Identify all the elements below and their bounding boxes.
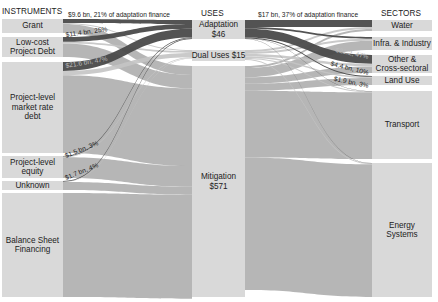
instrument-label: Balance SheetFinancing bbox=[2, 193, 63, 297]
use-value-text: $46 bbox=[199, 30, 238, 40]
instrument-label: Low-costProject Debt bbox=[2, 37, 63, 57]
annotation-water: $17 bn, 37% of adaptation finance bbox=[258, 11, 358, 19]
instrument-label: Grant bbox=[2, 19, 63, 33]
use-value-text: $571 bbox=[201, 182, 236, 192]
instrument-label: Unknown bbox=[2, 181, 63, 190]
use-label-adaptation: Adaptation$46 bbox=[192, 20, 245, 39]
flow-adaptation-sector bbox=[245, 20, 372, 27]
use-label-mitigation: Mitigation$571 bbox=[192, 66, 245, 297]
sector-label-text: Infra. & Industry bbox=[373, 39, 431, 49]
sectors-header: SECTORS bbox=[381, 9, 421, 18]
flow-instrument-mitigation bbox=[63, 193, 192, 299]
sector-label: Other &Cross-sectoral bbox=[372, 55, 432, 73]
annotation-grant: $9.6 bn, 21% of adaptation finance bbox=[68, 11, 170, 19]
flow-instrument-adaptation bbox=[63, 19, 192, 24]
sector-label-text: Cross-sectoral bbox=[376, 64, 429, 74]
instrument-label-text: Unknown bbox=[15, 181, 49, 191]
use-label-dual: Dual Uses $15 bbox=[186, 50, 251, 61]
instrument-label-text: market rate bbox=[10, 103, 55, 113]
instrument-label-text: Project Debt bbox=[10, 47, 55, 57]
flow-mitigation-sector bbox=[245, 157, 372, 297]
instrument-label-text: Low-cost bbox=[10, 38, 55, 48]
instrument-label-text: debt bbox=[10, 112, 55, 122]
uses-header: USES bbox=[201, 9, 224, 18]
use-label-text: Mitigation bbox=[201, 172, 236, 182]
instrument-label-text: Project-level bbox=[10, 158, 55, 168]
instrument-label-text: Financing bbox=[6, 245, 59, 255]
instrument-label-text: Grant bbox=[22, 21, 42, 31]
sector-label: Water bbox=[372, 20, 432, 31]
sector-label-text: Systems bbox=[386, 230, 417, 240]
sector-label: Land Use bbox=[372, 76, 432, 85]
sector-label-text: Other & bbox=[376, 55, 429, 65]
sector-label-text: Transport bbox=[385, 120, 420, 130]
sector-label: Transport bbox=[372, 91, 432, 159]
sector-label-text: Energy bbox=[386, 221, 417, 231]
instruments-header: INSTRUMENTS bbox=[2, 7, 62, 16]
sector-label: EnergySystems bbox=[372, 163, 432, 297]
sector-label: Infra. & Industry bbox=[372, 37, 432, 50]
sector-label-text: Land Use bbox=[384, 76, 419, 86]
sector-label-text: Water bbox=[391, 21, 413, 31]
instrument-label-text: Balance Sheet bbox=[6, 236, 59, 246]
instrument-label-text: equity bbox=[10, 167, 55, 177]
use-label-text: Adaptation bbox=[199, 20, 238, 30]
instrument-label: Project-levelequity bbox=[2, 156, 63, 178]
instrument-label-text: Project-level bbox=[10, 93, 55, 103]
instrument-label: Project-levelmarket ratedebt bbox=[2, 62, 63, 153]
